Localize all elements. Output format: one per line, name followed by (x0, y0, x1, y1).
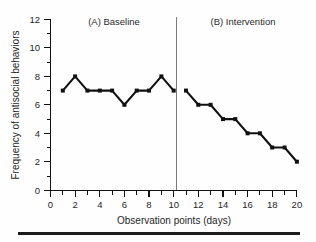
data-point (246, 131, 250, 135)
x-tick-label-18: 18 (267, 199, 278, 210)
y-axis-ticks (44, 20, 51, 191)
x-tick-label-20: 20 (292, 199, 303, 210)
data-point (159, 74, 163, 78)
x-tick-label-2: 2 (72, 199, 77, 210)
y-tick-label-8: 8 (35, 71, 40, 82)
data-point (85, 89, 89, 93)
x-axis-ticks (51, 191, 297, 197)
x-tick-label-14: 14 (218, 199, 229, 210)
x-tick-label-8: 8 (146, 199, 151, 210)
data-point (61, 89, 65, 93)
series-baseline (61, 74, 176, 106)
x-tick-label-12: 12 (193, 199, 204, 210)
data-point (73, 74, 77, 78)
x-tick-label-6: 6 (122, 199, 127, 210)
data-point (221, 117, 225, 121)
data-point (122, 103, 126, 107)
intervention-line (186, 91, 297, 162)
y-tick-label-6: 6 (35, 99, 40, 110)
x-tick-label-16: 16 (242, 199, 253, 210)
phase-a-label: (A) Baseline (88, 16, 140, 27)
bottom-rule-divider (18, 232, 300, 235)
data-point (110, 89, 114, 93)
baseline-line (63, 76, 174, 104)
data-point (196, 103, 200, 107)
y-tick-label-4: 4 (35, 128, 40, 139)
y-tick-label-0: 0 (35, 185, 40, 196)
data-point (147, 89, 151, 93)
x-tick-label-10: 10 (168, 199, 179, 210)
data-point (295, 160, 299, 164)
data-point (184, 89, 188, 93)
y-tick-label-12: 12 (29, 14, 40, 25)
x-tick-label-4: 4 (97, 199, 102, 210)
phase-b-label: (B) Intervention (211, 16, 276, 27)
y-tick-label-10: 10 (29, 42, 40, 53)
data-point (270, 146, 274, 150)
x-axis-title: Observation points (days) (117, 215, 231, 226)
y-axis-title: Frequency of antisocial behaviors (10, 31, 21, 180)
data-point (209, 103, 213, 107)
y-tick-label-2: 2 (35, 156, 40, 167)
data-point (233, 117, 237, 121)
x-tick-labels: 0 2 4 6 8 10 12 14 16 18 20 (48, 199, 302, 210)
data-point (135, 89, 139, 93)
series-intervention (184, 89, 299, 164)
figure-container: 12 10 8 6 4 2 0 0 2 4 6 8 10 12 14 16 18… (0, 0, 316, 242)
data-point (172, 89, 176, 93)
data-point (258, 131, 262, 135)
line-chart: 12 10 8 6 4 2 0 0 2 4 6 8 10 12 14 16 18… (0, 0, 316, 242)
data-point (283, 146, 287, 150)
y-tick-labels: 12 10 8 6 4 2 0 (29, 14, 40, 196)
data-point (98, 89, 102, 93)
x-tick-label-0: 0 (48, 199, 53, 210)
